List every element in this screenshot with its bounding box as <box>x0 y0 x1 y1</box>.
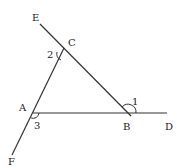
label-e: E <box>32 12 39 23</box>
label-f: F <box>8 156 15 167</box>
label-b: B <box>123 121 130 132</box>
label-angle-3: 3 <box>34 120 40 131</box>
label-a: A <box>18 102 27 113</box>
label-angle-1: 1 <box>132 96 138 107</box>
label-c: C <box>68 37 76 48</box>
label-angle-2: 2 <box>47 49 53 60</box>
triangle-diagram: E C 2 A 3 1 B D F <box>0 0 177 168</box>
label-d: D <box>165 121 173 132</box>
